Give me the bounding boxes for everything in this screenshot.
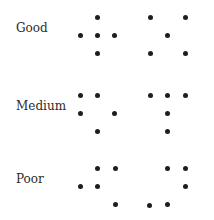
dot-poor-right: [165, 166, 170, 171]
dot-good-right: [148, 15, 153, 20]
row-label-poor: Poor: [16, 172, 44, 186]
dot-medium-left: [95, 129, 100, 134]
dot-good-left: [112, 33, 117, 38]
row-label-good: Good: [16, 21, 48, 35]
dot-good-left: [95, 15, 100, 20]
dot-good-left: [95, 51, 100, 56]
dot-poor-left: [78, 184, 83, 189]
dot-poor-left: [95, 166, 100, 171]
dot-poor-left: [113, 202, 118, 207]
dot-poor-left: [113, 166, 118, 171]
dot-medium-left: [78, 93, 83, 98]
dot-poor-right: [183, 166, 188, 171]
dot-medium-left: [78, 111, 83, 116]
row-label-medium: Medium: [16, 99, 66, 113]
dot-medium-right: [165, 93, 170, 98]
dot-good-left: [78, 33, 83, 38]
dot-poor-left: [95, 184, 100, 189]
dot-medium-right: [183, 93, 188, 98]
dot-poor-right: [147, 203, 152, 208]
dot-medium-right: [165, 129, 170, 134]
dot-good-right: [183, 15, 188, 20]
dot-medium-left: [95, 93, 100, 98]
dot-good-right: [148, 51, 153, 56]
dot-poor-right: [165, 202, 170, 207]
dot-medium-right: [148, 93, 153, 98]
dot-good-left: [95, 33, 100, 38]
dot-good-right: [165, 33, 170, 38]
dot-medium-left: [112, 111, 117, 116]
dot-good-right: [183, 51, 188, 56]
dot-medium-right: [165, 111, 170, 116]
dot-poor-right: [183, 184, 188, 189]
